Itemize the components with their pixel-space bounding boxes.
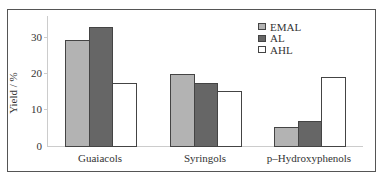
y-axis-label: Yield / % xyxy=(7,72,19,114)
legend-label-al: AL xyxy=(270,32,285,44)
bar-ahl-2 xyxy=(321,77,346,147)
bar-al-2 xyxy=(298,121,323,147)
y-tick-10: 10 xyxy=(22,103,42,115)
x-label-guaiacols: Guaiacols xyxy=(40,152,160,164)
legend-swatch-emal xyxy=(258,23,266,30)
bar-emal-0 xyxy=(65,40,90,147)
bar-al-0 xyxy=(89,27,114,147)
legend-item-al: AL xyxy=(258,33,301,45)
legend-item-ahl: AHL xyxy=(258,44,301,56)
y-axis xyxy=(47,16,48,147)
y-tick-30: 30 xyxy=(22,31,42,43)
bar-ahl-1 xyxy=(217,91,242,147)
y-tick-20: 20 xyxy=(22,67,42,79)
x-label-p-hydroxyphenols: p–Hydroxyphenols xyxy=(249,152,369,164)
legend: EMAL AL AHL xyxy=(258,21,301,56)
legend-swatch-al xyxy=(258,35,266,42)
legend-swatch-ahl xyxy=(258,46,266,53)
bar-al-1 xyxy=(194,83,219,147)
legend-label-emal: EMAL xyxy=(270,21,301,33)
y-tick-0: 0 xyxy=(22,140,42,152)
x-label-syringols: Syringols xyxy=(145,152,265,164)
legend-label-ahl: AHL xyxy=(270,44,293,56)
bar-ahl-0 xyxy=(112,83,137,146)
legend-item-emal: EMAL xyxy=(258,21,301,33)
bar-emal-2 xyxy=(274,127,299,146)
bar-emal-1 xyxy=(170,74,195,147)
